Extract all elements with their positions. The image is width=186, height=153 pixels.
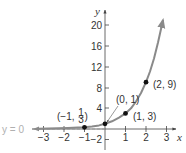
x-tick-label: 1 <box>123 132 129 143</box>
data-point-neg1 <box>82 125 87 130</box>
x-tick-label: −1 <box>79 132 91 143</box>
point-label-neg1: (−1, <box>57 111 75 122</box>
point-label-1: (1, 3) <box>133 111 156 122</box>
y-tick-label: 12 <box>91 62 103 73</box>
point-label-2: (2, 9) <box>153 79 176 90</box>
x-tick-label: −2 <box>58 132 70 143</box>
point-label-neg1-den: 3 <box>78 114 84 125</box>
y-tick-label: 4 <box>96 103 102 114</box>
y-tick-label: 8 <box>96 83 102 94</box>
data-point-2 <box>144 80 149 85</box>
x-tick-label: 3 <box>164 132 170 143</box>
data-point-1 <box>123 111 128 116</box>
asymptote-label: y = 0 <box>2 124 24 135</box>
y-tick-label: −2 <box>91 134 103 145</box>
y-tick-label: 20 <box>91 20 103 31</box>
x-tick-label: −3 <box>38 132 50 143</box>
y-axis-label: y <box>94 5 100 17</box>
x-axis-label: x <box>176 131 182 143</box>
point-label-neg1-close: ) <box>85 111 88 122</box>
data-point-0 <box>103 121 108 126</box>
exponential-chart: −3 −2 −1 1 2 3 20 16 12 8 4 −2 x y y = 0… <box>0 0 186 153</box>
point-label-0: (0, 1) <box>116 94 139 105</box>
x-tick-label: 2 <box>143 132 149 143</box>
curve-left-arrow-icon <box>33 127 39 132</box>
y-tick-label: 16 <box>91 41 103 52</box>
